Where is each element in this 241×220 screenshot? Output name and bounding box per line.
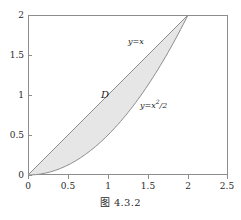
x-tick-mark-2: [108, 175, 109, 179]
x-tick-label-0: 0: [16, 181, 40, 191]
x-tick-label-4: 2: [176, 181, 200, 191]
x-tick-label-2: 1: [96, 181, 120, 191]
y-tick-label-2: 1: [2, 90, 24, 100]
annotation-region-label-d: D: [101, 89, 109, 100]
x-tick-mark-5: [227, 175, 228, 179]
y-tick-mark-1: [28, 135, 32, 136]
annotation-upper-curve-label: y=x: [128, 37, 144, 46]
y-tick-label-3: 1.5: [2, 50, 24, 60]
annotation-lower-curve-label: y=x2/2: [140, 101, 167, 110]
annotation-lower-curve-prefix: y=x: [140, 101, 156, 110]
figure-caption: 图 4.3.2: [0, 196, 241, 209]
x-tick-mark-1: [68, 175, 69, 179]
y-tick-mark-4: [28, 15, 32, 16]
x-tick-label-3: 1.5: [136, 181, 160, 191]
x-tick-mark-3: [148, 175, 149, 179]
x-tick-label-1: 0.5: [56, 181, 80, 191]
y-tick-mark-0: [28, 175, 32, 176]
y-tick-mark-3: [28, 55, 32, 56]
y-tick-label-1: 0.5: [2, 130, 24, 140]
figure-container: y=x y=x2/2 D 0 0.5 1 1.5 2 2.5 0 0.5 1 1…: [0, 0, 241, 220]
annotation-upper-curve-text: y=x: [128, 37, 144, 46]
y-tick-label-4: 2: [2, 10, 24, 20]
x-tick-mark-4: [188, 175, 189, 179]
y-tick-mark-2: [28, 95, 32, 96]
x-tick-label-5: 2.5: [215, 181, 239, 191]
y-tick-label-0: 0: [2, 170, 24, 180]
annotation-lower-curve-suffix: /2: [160, 101, 168, 110]
